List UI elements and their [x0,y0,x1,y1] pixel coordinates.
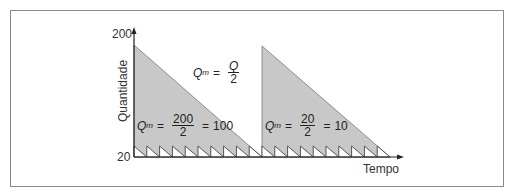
general-formula: Qm = Q2 [193,60,243,85]
x-axis-label: Tempo [363,162,399,176]
small-cycle-tooth [249,146,262,157]
large-cycle-triangle-2 [262,46,390,157]
inventory-sawtooth-diagram [0,0,511,196]
small-cycle-tooth [377,146,390,157]
y-tick-200: 200 [112,27,132,41]
formula-small-cycle: Qm = 202 = 10 [265,113,348,138]
x-axis-arrow-icon [397,155,404,160]
small-cycle-teeth [134,146,390,157]
formula-large-cycle: Qm = 2002 = 100 [137,113,233,138]
y-axis-label: Quantidade [116,60,130,122]
y-axis-arrow-icon [132,27,137,34]
y-tick-20: 20 [117,150,130,164]
